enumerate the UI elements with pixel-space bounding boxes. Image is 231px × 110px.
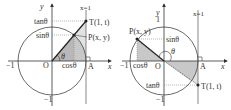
tan-theta-label: tanθ	[146, 81, 160, 90]
tan-theta-label: tanθ	[34, 17, 48, 26]
point-T	[197, 84, 200, 87]
point-P-label: P(x, y)	[88, 33, 110, 42]
one-y-label: 1	[156, 15, 160, 24]
right-angle-mark	[198, 57, 202, 61]
right-diagram: y 1 x x=1 O A T(1, t) P(x, y) −1 −1 sinθ…	[120, 4, 227, 106]
point-A-label: A	[200, 62, 206, 71]
point-P-label: P(x, y)	[129, 27, 151, 36]
origin-label: O	[155, 62, 161, 71]
point-T-label: T(1, t)	[201, 82, 222, 91]
angle-theta-label: θ	[171, 47, 175, 56]
neg-one-x-label: −1	[6, 61, 15, 70]
unit-circle-diagrams: y x x=1 O A T(1, t) P(x, y) −1 −1 tanθ s…	[0, 0, 231, 110]
y-axis-label: y	[39, 2, 44, 11]
line-x-equals-1-label: x=1	[193, 10, 204, 18]
origin-label: O	[43, 61, 49, 70]
neg-one-x-label: −1	[120, 61, 129, 70]
right-angle-mark	[86, 57, 90, 61]
x-axis-label: x	[220, 62, 225, 71]
sin-theta-label: sinθ	[166, 35, 179, 44]
left-diagram: y x x=1 O A T(1, t) P(x, y) −1 −1 tanθ s…	[6, 2, 112, 106]
point-A-label: A	[88, 62, 94, 71]
cos-theta-label: cosθ	[133, 61, 148, 70]
cos-theta-label: cosθ	[62, 61, 77, 70]
line-x-equals-1-label: x=1	[80, 4, 91, 12]
sin-theta-label: sinθ	[36, 31, 49, 40]
sector-shade	[164, 61, 198, 81]
neg-one-y-label: −1	[156, 95, 165, 104]
point-T-label: T(1, t)	[89, 18, 110, 27]
neg-one-y-label: −1	[44, 95, 53, 104]
point-T	[85, 20, 88, 23]
angle-theta-label: θ	[61, 52, 65, 61]
point-P	[136, 38, 139, 41]
x-axis-label: x	[107, 62, 112, 71]
